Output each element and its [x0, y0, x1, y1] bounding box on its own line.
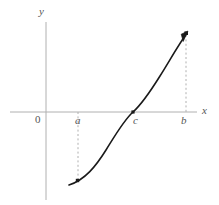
point-marker-b: [184, 31, 188, 35]
function-graph-figure: y x 0 a c b: [0, 0, 219, 205]
x-tick-label-c: c: [133, 115, 138, 126]
x-tick-label-b: b: [181, 115, 187, 126]
point-marker-a: [76, 179, 79, 182]
plot-canvas: [0, 0, 219, 205]
x-tick-label-a: a: [75, 115, 81, 126]
function-curve: [69, 33, 187, 185]
x-axis-label: x: [202, 105, 207, 116]
y-axis-label: y: [39, 6, 44, 17]
origin-label: 0: [35, 114, 41, 125]
